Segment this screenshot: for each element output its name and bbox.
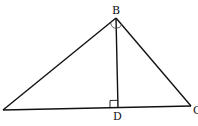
label-b: B	[112, 4, 120, 17]
segment-bc	[116, 18, 191, 106]
label-c: C	[193, 104, 198, 117]
label-d: D	[113, 110, 122, 123]
triangle-diagram: B D C	[0, 0, 198, 126]
segment-ac	[3, 106, 191, 110]
altitude-bd	[116, 18, 118, 108]
angle-arc-b-left	[111, 23, 117, 29]
segment-ab	[3, 18, 116, 110]
